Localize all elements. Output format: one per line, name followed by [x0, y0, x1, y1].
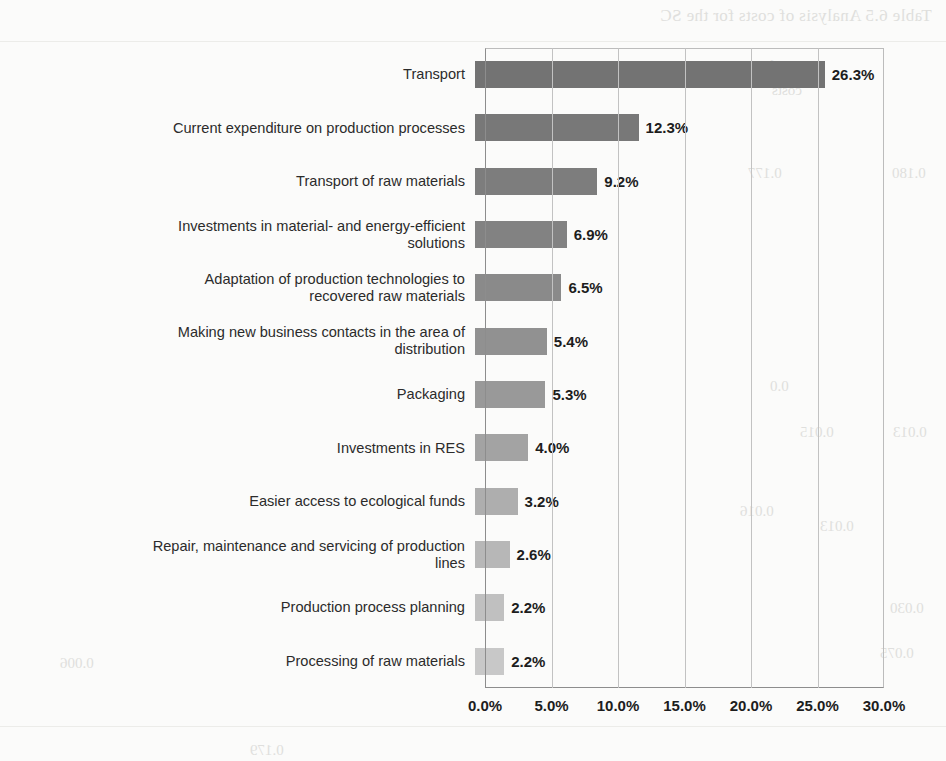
bar-container: 9.2% — [475, 155, 946, 208]
bar-container: 2.6% — [475, 528, 946, 581]
x-axis-tick: 15.0% — [663, 697, 706, 714]
bar-container: 6.9% — [475, 208, 946, 261]
bar-value-label: 5.3% — [552, 386, 586, 403]
category-label: Adaptation of production technologies to… — [0, 271, 475, 305]
bar-row: Processing of raw materials2.2% — [0, 635, 946, 688]
bar-row: Production process planning2.2% — [0, 581, 946, 634]
category-label: Investments in RES — [0, 440, 475, 457]
bar-value-label: 26.3% — [832, 66, 875, 83]
bar-container: 6.5% — [475, 261, 946, 314]
horizontal-bar-chart: Transport26.3%Current expenditure on pro… — [0, 0, 946, 761]
bar-row: Making new business contacts in the area… — [0, 315, 946, 368]
bar — [475, 328, 547, 355]
bar — [475, 168, 597, 195]
bar — [475, 114, 639, 141]
x-axis-tick: 0.0% — [468, 697, 502, 714]
bar-row: Packaging5.3% — [0, 368, 946, 421]
bar-value-label: 2.2% — [511, 653, 545, 670]
bar-value-label: 2.6% — [517, 546, 551, 563]
category-label: Current expenditure on production proces… — [0, 120, 475, 137]
bar-row: Easier access to ecological funds3.2% — [0, 475, 946, 528]
bar-value-label: 12.3% — [646, 119, 689, 136]
category-label: Investments in material- and energy-effi… — [0, 218, 475, 252]
category-label: Easier access to ecological funds — [0, 493, 475, 510]
category-label: Making new business contacts in the area… — [0, 324, 475, 358]
bar-value-label: 6.5% — [568, 279, 602, 296]
category-label: Production process planning — [0, 599, 475, 616]
bar — [475, 381, 545, 408]
category-label: Processing of raw materials — [0, 653, 475, 670]
bar-container: 26.3% — [475, 48, 946, 101]
bar-row: Transport of raw materials9.2% — [0, 155, 946, 208]
chart-rows: Transport26.3%Current expenditure on pro… — [0, 48, 946, 688]
bar-value-label: 4.0% — [535, 439, 569, 456]
bar-container: 5.4% — [475, 315, 946, 368]
bar-row: Investments in RES4.0% — [0, 421, 946, 474]
bar — [475, 648, 504, 675]
bar — [475, 221, 567, 248]
bar — [475, 434, 528, 461]
bar-row: Current expenditure on production proces… — [0, 101, 946, 154]
bar-container: 3.2% — [475, 475, 946, 528]
category-label: Transport — [0, 66, 475, 83]
bar-value-label: 5.4% — [554, 333, 588, 350]
bar-row: Investments in material- and energy-effi… — [0, 208, 946, 261]
category-label: Packaging — [0, 386, 475, 403]
category-label: Repair, maintenance and servicing of pro… — [0, 538, 475, 572]
bar — [475, 541, 510, 568]
bar-value-label: 3.2% — [525, 493, 559, 510]
bar-container: 2.2% — [475, 581, 946, 634]
bar-container: 4.0% — [475, 421, 946, 474]
bar — [475, 274, 561, 301]
x-axis-tick-labels: 0.0%5.0%10.0%15.0%20.0%25.0%30.0% — [0, 697, 946, 721]
scanned-chart-page: Table 6.5 Analysis of costs for the SC S… — [0, 0, 946, 761]
bar-value-label: 9.2% — [604, 173, 638, 190]
bar-value-label: 2.2% — [511, 599, 545, 616]
bar-row: Repair, maintenance and servicing of pro… — [0, 528, 946, 581]
bar-value-label: 6.9% — [574, 226, 608, 243]
x-axis-tick: 20.0% — [730, 697, 773, 714]
x-axis-tick: 10.0% — [597, 697, 640, 714]
bar-container: 5.3% — [475, 368, 946, 421]
category-label: Transport of raw materials — [0, 173, 475, 190]
bar — [475, 61, 825, 88]
x-axis-tick: 30.0% — [863, 697, 906, 714]
bar-container: 12.3% — [475, 101, 946, 154]
bar-row: Adaptation of production technologies to… — [0, 261, 946, 314]
bar-container: 2.2% — [475, 635, 946, 688]
bar-row: Transport26.3% — [0, 48, 946, 101]
bar — [475, 488, 518, 515]
x-axis-tick: 5.0% — [534, 697, 568, 714]
bar — [475, 594, 504, 621]
x-axis-tick: 25.0% — [796, 697, 839, 714]
